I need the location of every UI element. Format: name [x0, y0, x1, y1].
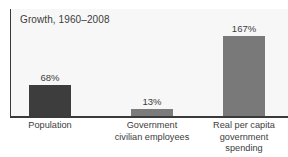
bar-government-civilian-employees: 13% — [131, 0, 173, 116]
category-label-government-civilian-employees-line-1: Government — [106, 120, 198, 132]
category-label-real-per-capita-government-spending-line-3: spending — [200, 143, 288, 155]
bar-rect-population — [29, 85, 71, 116]
bars-layer: 68% 13% 167% — [0, 0, 288, 116]
category-label-real-per-capita-government-spending-line-1: Real per capita — [200, 120, 288, 132]
category-label-population: Population — [10, 120, 90, 132]
category-label-population-line-1: Population — [10, 120, 90, 132]
bar-value-population: 68% — [40, 72, 59, 83]
bar-population: 68% — [29, 0, 71, 116]
bar-real-per-capita-government-spending: 167% — [223, 0, 265, 116]
category-label-real-per-capita-government-spending: Real per capita government spending — [200, 120, 288, 155]
bar-value-government-civilian-employees: 13% — [142, 96, 161, 107]
bar-chart-figure: Growth, 1960–2008 68% 13% 167% Populatio… — [0, 0, 288, 157]
bar-rect-government-civilian-employees — [131, 109, 173, 116]
category-labels-layer: Population Government civilian employees… — [0, 118, 288, 157]
bar-rect-real-per-capita-government-spending — [223, 36, 265, 116]
bar-value-real-per-capita-government-spending: 167% — [232, 23, 256, 34]
category-label-real-per-capita-government-spending-line-2: government — [200, 132, 288, 144]
category-label-government-civilian-employees-line-2: civilian employees — [106, 132, 198, 144]
category-label-government-civilian-employees: Government civilian employees — [106, 120, 198, 143]
